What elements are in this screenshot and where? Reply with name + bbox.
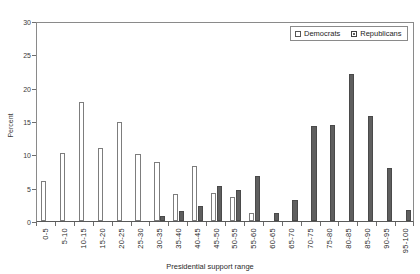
x-axis-label: Presidential support range <box>0 262 420 271</box>
x-axis-tick-mark <box>338 222 339 226</box>
x-axis-tick-label: 20-25 <box>117 228 126 249</box>
x-axis-tick-mark <box>395 222 396 226</box>
x-axis-tick-mark <box>301 222 302 226</box>
y-axis-tick-label: 20 <box>0 85 36 92</box>
x-axis-tick-mark <box>36 222 37 226</box>
x-axis-tick-label: 90-95 <box>382 228 391 249</box>
bar-republicans <box>236 190 241 221</box>
x-axis-tick-mark <box>55 222 56 226</box>
legend-label-democrats: Democrats <box>304 29 340 38</box>
legend-item-democrats: Democrats <box>295 29 340 38</box>
bar-republicans <box>368 116 373 221</box>
y-axis-label: Percent <box>7 96 14 156</box>
y-axis-tick-label: 5 <box>0 185 36 192</box>
bar-republicans <box>406 210 411 221</box>
bar-republicans <box>217 186 222 221</box>
x-axis-tick-label: 35-40 <box>174 228 183 249</box>
bar-democrats <box>192 166 197 221</box>
x-axis-tick-mark <box>187 222 188 226</box>
x-axis-tick-mark <box>93 222 94 226</box>
x-axis-tick-mark <box>149 222 150 226</box>
bar-republicans <box>179 211 184 221</box>
bar-republicans <box>255 176 260 221</box>
x-axis-tick-label: 25-30 <box>136 228 145 249</box>
x-axis-tick-mark <box>376 222 377 226</box>
y-axis-tick-label: 30 <box>0 19 36 26</box>
bar-democrats <box>79 102 84 221</box>
bar-democrats <box>230 197 235 221</box>
x-axis-tick-mark <box>320 222 321 226</box>
x-axis-tick-label: 45-50 <box>212 228 221 249</box>
legend-item-republicans: Republicans <box>351 29 401 38</box>
bar-democrats <box>117 122 122 221</box>
bar-republicans <box>292 200 297 221</box>
legend-label-republicans: Republicans <box>360 29 401 38</box>
bar-democrats <box>98 148 103 221</box>
x-axis-tick-mark <box>168 222 169 226</box>
plot-area <box>36 22 414 222</box>
x-axis-tick-label: 40-45 <box>193 228 202 249</box>
filled-square-icon <box>351 31 357 37</box>
x-axis-tick-label: 75-80 <box>325 228 334 249</box>
x-axis-tick-mark <box>206 222 207 226</box>
chart-figure: Percent 051015202530 0-55-1010-1515-2020… <box>0 0 420 274</box>
x-axis-tick-mark <box>244 222 245 226</box>
chart-legend: Democrats Republicans <box>290 26 408 41</box>
y-axis-tick-label: 0 <box>0 219 36 226</box>
bar-republicans <box>349 74 354 221</box>
x-axis-tick-label: 55-60 <box>249 228 258 249</box>
x-axis-tick-mark <box>357 222 358 226</box>
bar-democrats <box>135 154 140 221</box>
y-axis-tick-label: 25 <box>0 52 36 59</box>
x-axis-tick-label: 80-85 <box>344 228 353 249</box>
bar-democrats <box>154 162 159 221</box>
x-axis-tick-label: 65-70 <box>287 228 296 249</box>
y-axis-tick-label: 15 <box>0 119 36 126</box>
x-axis-tick-label: 60-65 <box>268 228 277 249</box>
x-axis-tick-label: 10-15 <box>79 228 88 249</box>
bar-democrats <box>41 181 46 221</box>
x-axis-tick-mark <box>112 222 113 226</box>
hollow-square-icon <box>295 31 301 37</box>
x-axis-tick-mark <box>225 222 226 226</box>
bar-republicans <box>311 126 316 221</box>
x-axis-tick-mark <box>413 222 414 226</box>
bar-democrats <box>211 193 216 221</box>
x-axis-tick-mark <box>263 222 264 226</box>
x-axis-tick-mark <box>74 222 75 226</box>
bar-democrats <box>173 194 178 221</box>
x-axis-tick-label: 30-35 <box>155 228 164 249</box>
x-axis-tick-label: 15-20 <box>98 228 107 249</box>
x-axis-tick-mark <box>131 222 132 226</box>
bar-republicans <box>387 168 392 221</box>
bar-republicans <box>274 213 279 221</box>
bar-democrats <box>60 153 65 221</box>
bar-republicans <box>198 206 203 221</box>
x-axis-tick-label: 85-90 <box>363 228 372 249</box>
bar-democrats <box>249 213 254 221</box>
x-axis-tick-label: 50-55 <box>230 228 239 249</box>
y-axis-tick-label: 10 <box>0 152 36 159</box>
x-axis-tick-label: 5-10 <box>60 228 69 244</box>
x-axis-tick-label: 70-75 <box>306 228 315 249</box>
bar-republicans <box>160 216 165 221</box>
bar-republicans <box>330 125 335 221</box>
x-axis-tick-label: 0-5 <box>41 228 50 240</box>
x-axis-tick-label: 95-100 <box>401 228 410 253</box>
x-axis-tick-mark <box>282 222 283 226</box>
